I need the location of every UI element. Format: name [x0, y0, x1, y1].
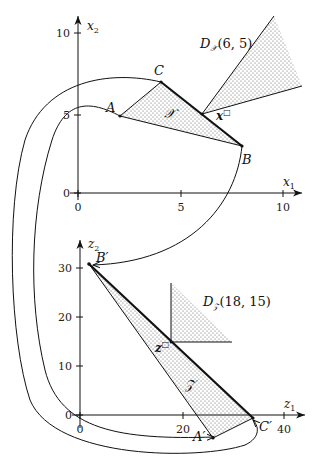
- x2-axis-label: x2: [87, 19, 99, 35]
- point-z-square: [170, 341, 173, 344]
- label-c-prime: C′: [259, 419, 272, 434]
- point-a-prime: [211, 436, 214, 439]
- decision-space-plot: 0 5 10 0 5 10 x1 x2 A C B 𝒳 x□ D𝒳(6, 5): [56, 16, 302, 214]
- z1-tick-0: 0: [77, 423, 84, 436]
- label-cone-dx: D𝒳(6, 5): [199, 36, 252, 53]
- z2-tick-30: 30: [58, 262, 72, 275]
- z1-tick-20: 20: [176, 423, 190, 436]
- decision-to-objective-mapping-diagram: 0 5 10 0 5 10 x1 x2 A C B 𝒳 x□ D𝒳(6, 5): [0, 0, 320, 465]
- z1-axis-label: z1: [283, 397, 295, 413]
- dominance-cone-dx: [202, 16, 302, 114]
- x1-tick-5: 5: [178, 201, 185, 214]
- x1-tick-10: 10: [276, 201, 290, 214]
- z2-tick-0: 0: [65, 409, 72, 422]
- label-x-square: x□: [215, 108, 231, 123]
- label-c: C: [154, 63, 164, 78]
- point-c-prime: [251, 416, 254, 419]
- x1-tick-0: 0: [75, 201, 82, 214]
- x1-axis-label: x1: [283, 175, 295, 191]
- edge-b-prime-a-prime: [89, 264, 213, 438]
- z1-tick-40: 40: [277, 423, 291, 436]
- point-b-prime: [87, 262, 91, 266]
- point-x-square: [200, 112, 203, 115]
- x2-tick-0: 0: [63, 187, 70, 200]
- map-curve-b-to-b-prime: [93, 146, 242, 265]
- label-a-prime: A′: [192, 429, 205, 444]
- label-b-prime: B′: [95, 250, 109, 265]
- x2-tick-5: 5: [63, 109, 70, 122]
- z2-tick-10: 10: [58, 360, 72, 373]
- z2-tick-20: 20: [58, 311, 72, 324]
- dominance-cone-dz: [171, 283, 232, 342]
- label-b: B: [241, 152, 252, 167]
- label-cone-dz: D𝒵(18, 15): [202, 294, 271, 311]
- objective-space-plot: 0 20 40 0 10 20 30 z1 z2 B′ C′ A′ 𝒵 z□ D…: [58, 237, 305, 444]
- x2-tick-10: 10: [56, 27, 70, 40]
